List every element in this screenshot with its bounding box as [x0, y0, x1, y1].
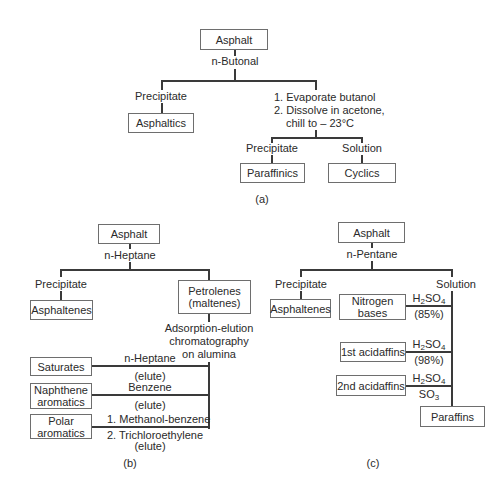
a-sub-solution-label: Solution: [342, 142, 382, 155]
b-split-line: [60, 269, 209, 271]
a-cyclics-box: Cyclics: [328, 163, 396, 183]
a-right-drop: [315, 80, 317, 90]
b-saturates-box: Saturates: [30, 357, 92, 376]
c-solution-column-line: [451, 291, 453, 406]
c-nitrogen-concentration: (85%): [414, 308, 443, 321]
b-caption: (b): [123, 457, 136, 469]
b-polar-box: Polar aromatics: [30, 414, 92, 439]
b-saturates-line: [92, 365, 209, 367]
b-naphthene-label: Naphthene: [34, 384, 88, 396]
b-polar-eluent-1: 1. Methanol-benzene: [107, 413, 210, 426]
c-paraffins-label: Paraffins: [431, 411, 474, 423]
c-solution-label: Solution: [436, 278, 476, 291]
a-left-drop: [161, 80, 163, 90]
b-method-line-3: on alumina: [182, 348, 236, 361]
c-asphalt-box: Asphalt: [338, 222, 405, 243]
c-solvent-label: n-Pentane: [347, 248, 398, 261]
b-polar-elute: (elute): [134, 440, 165, 453]
c-precipitate-label: Precipitate: [275, 278, 327, 291]
b-polar-aromatics-label: aromatics: [37, 427, 85, 439]
b-precipitate-label: Precipitate: [35, 278, 87, 291]
a-precipitate-label: Precipitate: [135, 90, 187, 103]
c-nitrogen-label: Nitrogen: [352, 295, 394, 307]
c-split-line: [300, 269, 452, 271]
c-2nd-acidaffins-reagent: H2SO4: [413, 372, 446, 385]
b-naphthene-elute: (elute): [134, 399, 165, 412]
b-method-line-2: chromatography: [169, 335, 249, 348]
b-petrolenes-box: Petrolenes (maltenes): [178, 280, 251, 314]
b-root-line-bottom: [129, 262, 131, 269]
b-asphaltenes-label: Asphaltenes: [31, 304, 92, 316]
a-precipitate-line: [161, 103, 163, 113]
c-1st-acidaffins-reagent: H2SO4: [413, 338, 446, 351]
a-step-2: 2. Dissolve in acetone,: [274, 104, 385, 117]
b-asphalt-label: Asphalt: [111, 228, 148, 240]
a-step-1: 1. Evaporate butanol: [274, 91, 376, 104]
a-step-3: chill to – 23°C: [286, 117, 354, 130]
a-solvent-label: n-Butonal: [211, 55, 258, 68]
b-naphthene-line: [92, 394, 209, 396]
a-cyclics-label: Cyclics: [345, 167, 380, 179]
c-1st-acidaffins-box: 1st acidaffins: [340, 342, 406, 362]
a-root-line-bottom: [234, 69, 236, 80]
b-precipitate-line: [60, 291, 62, 300]
a-asphalt-box: Asphalt: [200, 29, 268, 50]
a-asphaltics-box: Asphaltics: [128, 113, 194, 133]
c-nitrogen-bases-box: Nitrogen bases: [339, 294, 406, 320]
b-petrolenes-line: [208, 314, 210, 322]
b-maltenes-label: (maltenes): [188, 297, 241, 309]
a-paraffinics-label: Paraffinics: [247, 167, 298, 179]
c-nitrogen-reagent: H2SO4: [413, 292, 446, 305]
c-root-line-bottom: [371, 261, 373, 269]
b-left-drop: [60, 269, 62, 277]
b-saturates-eluent: n-Heptane: [124, 352, 175, 365]
c-1st-acidaffins-label: 1st acidaffins: [341, 346, 405, 358]
a-paraffinics-box: Paraffinics: [240, 163, 305, 183]
c-left-drop: [300, 269, 302, 277]
b-asphaltenes-box: Asphaltenes: [30, 300, 93, 320]
c-right-drop: [451, 269, 453, 277]
a-asphaltics-label: Asphaltics: [136, 117, 186, 129]
a-sub-left-line: [271, 155, 273, 163]
c-2nd-acidaffins-box: 2nd acidaffins: [336, 375, 406, 396]
a-asphalt-label: Asphalt: [216, 34, 253, 46]
b-polar-line: [92, 426, 209, 428]
b-naphthene-eluent: Benzene: [128, 381, 171, 394]
c-caption: (c): [367, 457, 380, 469]
a-split-line: [161, 80, 316, 82]
c-2nd-acidaffins-label: 2nd acidaffins: [337, 380, 405, 392]
c-asphalt-label: Asphalt: [353, 227, 390, 239]
c-asphaltenes-box: Asphaltenes: [270, 299, 331, 318]
b-solvent-label: n-Heptane: [104, 249, 155, 262]
b-asphalt-box: Asphalt: [98, 224, 160, 244]
b-right-drop: [208, 269, 210, 280]
c-paraffins-box: Paraffins: [420, 406, 485, 427]
b-polar-label: Polar: [37, 415, 85, 427]
b-method-line-1: Adsorption-elution: [165, 322, 254, 335]
c-asphaltenes-label: Asphaltenes: [270, 303, 331, 315]
a-sub-precipitate-label: Precipitate: [246, 142, 298, 155]
b-naphthene-box: Naphthene aromatics: [30, 383, 92, 409]
b-naphthene-aromatics-label: aromatics: [34, 396, 88, 408]
diagram-canvas: Asphalt n-Butonal Precipitate Asphaltics…: [0, 0, 501, 479]
a-sub-right-line: [361, 155, 363, 163]
b-saturates-label: Saturates: [37, 361, 84, 373]
c-bases-label: bases: [352, 307, 394, 319]
a-caption: (a): [255, 193, 268, 205]
a-sub-split-line: [271, 137, 362, 139]
c-1st-acidaffins-concentration: (98%): [414, 354, 443, 367]
b-petrolenes-label: Petrolenes: [188, 285, 241, 297]
c-2nd-acidaffins-reagent-2: SO3: [419, 388, 439, 401]
